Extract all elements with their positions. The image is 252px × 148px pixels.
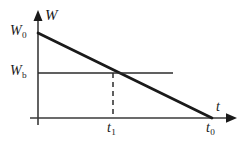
decline-line [38, 33, 212, 118]
t-axis-arrowhead-icon [226, 113, 237, 123]
w-axis-arrowhead-icon [34, 10, 43, 21]
t-zero-label: t0 [206, 121, 215, 135]
w-axis-label: W [45, 8, 58, 23]
t-axis-label: t [216, 100, 220, 114]
w-zero-label: W0 [10, 24, 26, 38]
figure-container: W W0 Wb t t1 t0 [0, 0, 252, 148]
t-one-label: t1 [107, 121, 116, 135]
w-b-label: Wb [10, 64, 26, 78]
